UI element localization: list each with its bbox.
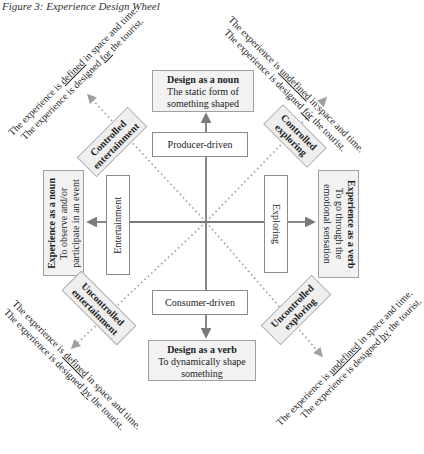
producer-driven-label: Producer-driven <box>168 139 233 151</box>
experience-as-verb-title: Experience as a verb <box>345 180 357 269</box>
experience-as-noun-line1: To observe and/or <box>58 178 70 269</box>
experience-as-verb-box: Experience as a verb To go through the e… <box>318 170 359 278</box>
consumer-driven-box: Consumer-driven <box>152 290 248 315</box>
exploring-label: Exploring <box>270 204 282 244</box>
experience-as-noun-line2: participate in an event <box>70 178 82 269</box>
design-as-verb-line1: To dynamically shape <box>149 356 255 368</box>
design-as-verb-line2: something <box>149 368 255 380</box>
experience-as-noun-title: Experience as a noun <box>46 178 58 269</box>
design-as-noun-title: Design as a noun <box>153 74 253 86</box>
experience-as-noun-box: Experience as a noun To observe and/or p… <box>43 170 84 276</box>
design-as-verb-box: Design as a verb To dynamically shape so… <box>148 340 256 381</box>
entertainment-label: Entertainment <box>112 197 124 254</box>
experience-as-verb-line1: To go through the <box>333 180 345 269</box>
design-as-noun-box: Design as a noun The static form of some… <box>152 70 254 112</box>
exploring-box: Exploring <box>264 175 288 273</box>
experience-as-verb-line2: emotional sensation <box>321 180 333 269</box>
design-as-noun-line2: something shaped <box>153 98 253 110</box>
entertainment-box: Entertainment <box>106 175 130 275</box>
producer-driven-box: Producer-driven <box>152 132 248 157</box>
design-as-verb-title: Design as a verb <box>149 344 255 356</box>
design-as-noun-line1: The static form of <box>153 86 253 98</box>
consumer-driven-label: Consumer-driven <box>165 297 235 309</box>
